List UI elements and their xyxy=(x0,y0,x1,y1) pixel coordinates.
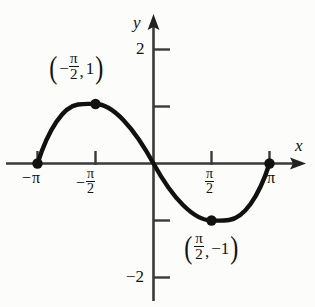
fraction-numerator: π xyxy=(205,167,214,181)
y-value: −1 xyxy=(211,240,229,257)
x-tick-label-pi-over-2: π 2 xyxy=(204,168,214,198)
pi-symbol: π xyxy=(32,170,40,186)
fraction-denominator: 2 xyxy=(194,246,204,263)
pi-symbol: π xyxy=(267,170,275,186)
plot-canvas xyxy=(0,0,315,307)
close-paren: ) xyxy=(230,237,238,259)
y-axis-label: y xyxy=(133,14,141,31)
minus-sign: − xyxy=(76,175,85,191)
min-point-annotation: ( π 2 , −1 ) xyxy=(183,232,240,264)
fraction: π 2 xyxy=(86,167,95,197)
y-tick-label-2: 2 xyxy=(136,40,145,57)
point-min xyxy=(206,215,216,225)
fraction-denominator: 2 xyxy=(69,66,79,83)
max-point-annotation: ( − π 2 , 1 ) xyxy=(48,52,105,84)
fraction-denominator: 2 xyxy=(86,181,95,197)
x-tick-label-neg-pi: − π xyxy=(22,170,40,186)
open-paren: ( xyxy=(184,237,192,259)
fraction: π 2 xyxy=(69,51,79,83)
fraction-denominator: 2 xyxy=(205,181,214,197)
comma: , xyxy=(80,63,84,80)
fraction-numerator: π xyxy=(194,231,204,246)
x-tick-label-pi: π xyxy=(266,170,275,186)
point-neg-pi xyxy=(32,158,42,168)
y-tick-label-neg-2: −2 xyxy=(126,268,144,285)
fraction: π 2 xyxy=(205,167,214,197)
point-pi xyxy=(264,158,274,168)
minus-sign: − xyxy=(22,170,31,186)
fraction-numerator: π xyxy=(69,51,79,66)
open-paren: ( xyxy=(49,57,57,79)
point-max xyxy=(90,99,100,109)
fraction-numerator: π xyxy=(86,167,95,181)
graph-figure: y x 2 −2 − π − π 2 π 2 π ( − π 2 xyxy=(0,0,315,307)
comma: , xyxy=(205,243,209,260)
close-paren: ) xyxy=(95,57,103,79)
fraction: π 2 xyxy=(194,231,204,263)
y-value: 1 xyxy=(86,60,95,77)
minus-sign: − xyxy=(59,60,69,77)
x-axis-label: x xyxy=(295,137,303,154)
x-tick-label-neg-pi-over-2: − π 2 xyxy=(76,168,95,198)
